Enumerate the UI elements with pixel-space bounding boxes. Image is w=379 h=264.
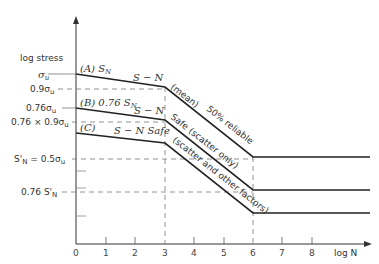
- x-tick-2: 2: [132, 248, 138, 258]
- curve-a-mean: (mean): [169, 82, 201, 110]
- x-tick-0: 0: [73, 248, 79, 258]
- ylabel-076sn: 0.76 S'N: [21, 187, 57, 199]
- x-tick-8: 8: [309, 248, 315, 258]
- curve-c-label: (C): [80, 122, 96, 133]
- x-tick-3: 3: [162, 248, 168, 258]
- y-axis-label: log stress: [20, 53, 64, 63]
- curve-a-sn: S − N: [133, 72, 165, 83]
- y-ticks: [76, 171, 86, 216]
- ylabel-09su: 0.9σu: [30, 84, 54, 96]
- curve-c-sn: S − N Safe: [114, 125, 170, 136]
- curve-a-label: (A) SN: [80, 63, 112, 76]
- ylabel-su: σu: [38, 69, 50, 82]
- x-ticks: [106, 237, 312, 244]
- sn-diagram: 0 1 2 3 4 5 6 7 8 log N log stress σu 0.…: [0, 0, 379, 264]
- x-tick-5: 5: [221, 248, 227, 258]
- ylabel-076su: 0.76σu: [26, 103, 56, 115]
- ylabel-076x09su: 0.76 × 0.9σu: [11, 117, 69, 129]
- x-tick-7: 7: [279, 248, 285, 258]
- curve-b-sn: S − N: [134, 105, 166, 116]
- x-axis-arrow-icon: [364, 241, 372, 247]
- curve-b-label: (B) 0.76 SN: [80, 97, 138, 110]
- x-tick-4: 4: [191, 248, 197, 258]
- y-axis-arrow-icon: [73, 16, 79, 24]
- x-tick-6: 6: [250, 248, 256, 258]
- x-axis-label: log N: [334, 248, 357, 258]
- x-tick-1: 1: [103, 248, 109, 258]
- ylabel-sn: S'N = 0.5σu: [14, 154, 65, 166]
